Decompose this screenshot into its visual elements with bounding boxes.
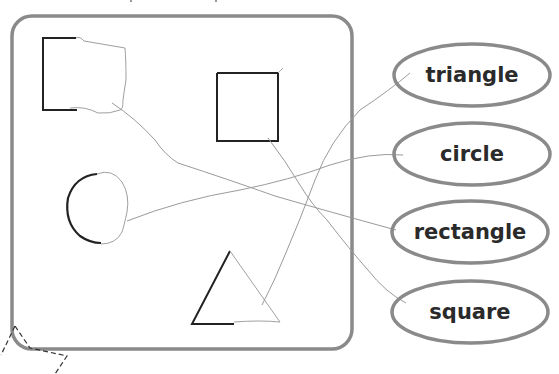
label-circle-text: circle: [440, 142, 504, 166]
label-triangle-text: triangle: [425, 63, 518, 87]
label-square[interactable]: square: [392, 281, 548, 343]
matching-worksheet: triangle circle rectangle square: [0, 0, 559, 374]
label-rectangle[interactable]: rectangle: [392, 201, 548, 263]
label-rectangle-text: rectangle: [414, 220, 527, 244]
shapes-panel: [12, 16, 352, 349]
label-square-text: square: [429, 300, 510, 324]
label-triangle[interactable]: triangle: [394, 44, 550, 106]
label-circle[interactable]: circle: [394, 123, 550, 185]
top-cutoff-marks: [130, 0, 217, 2]
